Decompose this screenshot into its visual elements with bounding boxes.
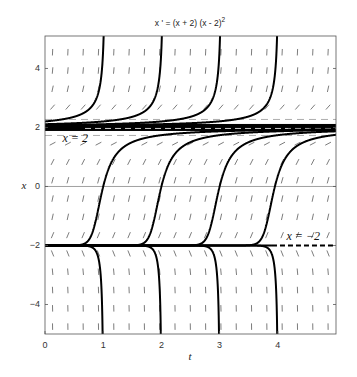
slope-segment [113,269,114,275]
slope-segment [281,232,284,238]
title-text: x ' = (x + 2) (x - 2) [155,18,222,28]
slope-segment [67,177,69,183]
slope-segment [128,232,131,238]
slope-segment [128,86,129,92]
slope-segment [327,250,329,256]
slope-segment [83,67,84,73]
slope-segment [236,86,237,92]
x-tick-label: 3 [217,340,222,350]
slope-segment [312,67,313,73]
slope-segment [144,214,145,220]
slope-segment [144,269,145,275]
slope-segment [96,105,100,110]
slope-segment [310,142,316,145]
slope-segment [96,142,102,145]
solution-curve [44,245,102,353]
slope-segment [174,250,176,256]
slope-segment [297,214,298,220]
slope-segment [312,86,313,92]
slope-segment [129,269,130,275]
slope-segment [311,105,315,110]
slope-segment [81,105,85,110]
equilibrium-annotations: x = 2x = −2 [61,131,320,242]
slope-segment [221,269,222,275]
slope-segment [296,159,299,165]
slope-segment [296,250,298,256]
slope-segment [281,177,283,183]
slope-segment [68,269,69,275]
slope-segment [172,142,178,145]
slope-segment [188,105,192,110]
slope-segment [295,105,299,110]
slope-segment [205,86,206,92]
equilibrium-lines [45,119,336,245]
x-tick-label: 1 [101,340,106,350]
slope-segment [235,232,238,238]
slope-segment [190,214,191,220]
slope-segment [266,86,267,92]
slope-segment [282,67,283,73]
slope-segment [174,232,177,238]
slope-segment [297,86,298,92]
slope-segment [158,232,161,238]
slope-segment [190,86,191,92]
slope-segment [279,142,285,145]
slope-segment [312,195,313,201]
slope-segment [250,250,252,256]
slope-segment [50,142,56,145]
slope-segment [113,177,115,183]
chart-title: x ' = (x + 2) (x - 2)2 [155,16,226,28]
slope-segment [312,269,313,275]
slope-segment [82,214,83,220]
slope-segment [52,214,53,220]
slope-segment [67,232,70,238]
slope-segment [97,159,100,165]
slope-segment [327,232,330,238]
slope-segment [128,159,131,165]
slope-segment [204,250,206,256]
slope-segment [327,214,328,220]
slope-segment [174,159,177,165]
slope-segment [297,269,298,275]
slope-segment [312,250,314,256]
slope-segment [327,159,330,165]
slope-segment [251,67,252,73]
slope-segment [97,232,100,238]
slope-segment [189,159,192,165]
slope-segment [158,105,162,110]
slope-segment [174,214,175,220]
slope-segment [266,195,267,201]
y-tick-label: 0 [35,181,40,191]
slope-segment [312,214,313,220]
solution-curve [44,245,219,353]
y-tick-label: 2 [35,122,40,132]
slope-segment [143,250,145,256]
direction-field-chart: x ' = (x + 2) (x - 2)2 01234 −4−2024 t x… [0,0,357,377]
slope-segment [205,269,206,275]
slope-segment [98,177,100,183]
slope-segment [114,67,115,73]
slope-segment [281,250,283,256]
slope-segment [233,142,239,145]
slope-segment [51,159,54,165]
slope-segment [220,232,223,238]
slope-segment [266,177,268,183]
slope-segment [173,105,177,110]
slope-segment [297,177,299,183]
slope-segment [220,195,221,201]
slope-segment [142,142,148,145]
slope-segment [52,195,53,201]
slope-segment [52,86,53,92]
slope-segment [66,159,69,165]
slope-segment [175,67,176,73]
slope-segment [236,67,237,73]
y-axis-label: x [21,179,27,191]
slope-segment [328,67,329,73]
slope-segment [128,214,129,220]
slope-segment [83,269,84,275]
slope-segment [251,195,252,201]
slope-segment [174,86,175,92]
slope-segment [67,250,69,256]
slope-segment [157,142,163,145]
y-tick-label: −4 [30,299,40,309]
